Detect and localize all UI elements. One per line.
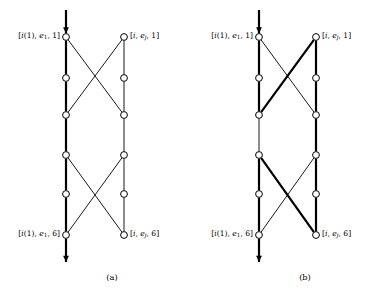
panel-a-node-right-6 — [121, 232, 128, 239]
panel-a-node-right-5 — [121, 191, 128, 198]
panel-b-node-right-3 — [313, 112, 320, 119]
panel-b-caption: (b) — [285, 272, 325, 282]
panel-a-label-top-left: [i(1), e1, 1] — [2, 32, 60, 41]
panel-a-output-arrow-head — [63, 256, 69, 262]
panel-a-node-left-1 — [63, 34, 70, 41]
panel-a-node-left-5 — [63, 191, 70, 198]
panel-b-node-left-6 — [256, 232, 263, 239]
panel-b-node-left-2 — [256, 75, 263, 82]
panel-b-label-bottom-left: [i(1), e1, 6] — [196, 230, 253, 239]
diagram-canvas — [0, 0, 385, 301]
panel-a-node-left-6 — [63, 232, 70, 239]
panel-a-label-bottom-left: [i(1), e1, 6] — [2, 230, 60, 239]
panel-b-label-top-left: [i(1), e1, 1] — [196, 32, 253, 41]
figure-trellis-pair: [i(1), e1, 1] [i, ej, 1] [i(1), e1, 6] [… — [0, 0, 385, 301]
panel-b-node-left-5 — [256, 191, 263, 198]
panel-b-node-right-1 — [313, 34, 320, 41]
panel-b-label-bottom-right: [i, ej, 6] — [322, 230, 351, 239]
panel-a-input-arrow-head — [63, 27, 69, 33]
panel-b-node-right-4 — [313, 152, 320, 159]
panel-a-label-top-right: [i, ej, 1] — [130, 32, 159, 41]
panel-b-node-right-5 — [313, 191, 320, 198]
panel-a-node-right-3 — [121, 112, 128, 119]
panel-b-node-left-3 — [256, 112, 263, 119]
panel-a-label-bottom-right: [i, ej, 6] — [130, 230, 159, 239]
panel-b-node-left-4 — [256, 152, 263, 159]
panel-a-node-left-2 — [63, 75, 70, 82]
panel-b-output-arrow-head — [256, 256, 262, 262]
panel-b-label-top-right: [i, ej, 1] — [322, 32, 351, 41]
panel-a-node-right-4 — [121, 152, 128, 159]
panel-a-caption: (a) — [92, 272, 132, 282]
panel-b-input-arrow-head — [256, 27, 262, 33]
panel-a-node-left-4 — [63, 152, 70, 159]
panel-a-node-right-1 — [121, 34, 128, 41]
panel-a-node-left-3 — [63, 112, 70, 119]
panel-b-node-left-1 — [256, 34, 263, 41]
panel-a-node-right-2 — [121, 75, 128, 82]
panel-b-node-right-6 — [313, 232, 320, 239]
panel-b-node-right-2 — [313, 75, 320, 82]
